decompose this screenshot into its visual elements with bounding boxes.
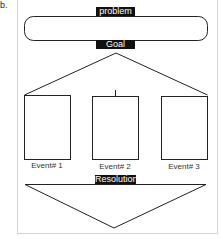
event-box-1 xyxy=(25,96,71,160)
goal-label: Goal xyxy=(96,40,135,49)
event-label-1: Event# 1 xyxy=(17,161,77,170)
story-structure-diagram xyxy=(0,0,221,239)
event-box-2 xyxy=(93,97,139,160)
event-label-2: Event# 2 xyxy=(85,162,145,171)
goal-branch-right xyxy=(116,53,208,95)
problem-box xyxy=(25,17,208,41)
resolution-label: Resolution xyxy=(95,175,136,184)
goal-branch-left xyxy=(25,53,117,95)
resolution-triangle xyxy=(25,185,206,229)
event-box-3 xyxy=(162,97,208,160)
problem-label: problem xyxy=(96,7,135,16)
event-label-3: Event# 3 xyxy=(154,162,214,171)
